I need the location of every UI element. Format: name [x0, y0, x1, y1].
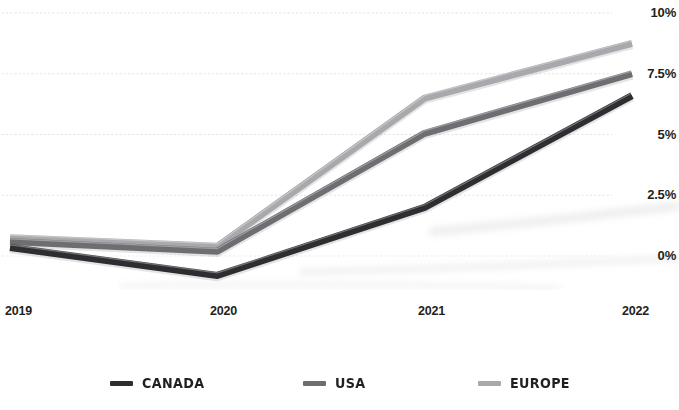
chart-legend: CANADAUSAEUROPE	[0, 373, 679, 397]
plot-area: 10%7.5%5%2.5%0%	[0, 0, 679, 290]
legend-item-europe[interactable]: EUROPE	[478, 373, 578, 393]
y-tick-label: 0%	[658, 249, 676, 262]
y-tick-label: 10%	[651, 6, 676, 19]
legend-swatch-icon	[303, 381, 326, 386]
legend-item-canada[interactable]: CANADA	[110, 373, 213, 393]
line-chart: 10%7.5%5%2.5%0% 2019202020212022 CANADAU…	[0, 0, 679, 410]
legend-item-usa[interactable]: USA	[303, 373, 370, 393]
legend-label: EUROPE	[510, 376, 570, 391]
plot-svg	[0, 0, 679, 290]
legend-swatch-icon	[110, 381, 133, 386]
y-tick-label: 7.5%	[647, 67, 676, 80]
y-tick-label: 5%	[658, 128, 676, 141]
legend-label: CANADA	[142, 376, 204, 391]
x-tick-label-2022: 2022	[622, 305, 649, 318]
x-tick-label-2021: 2021	[418, 305, 445, 318]
x-tick-label-2020: 2020	[210, 305, 237, 318]
y-tick-label: 2.5%	[647, 188, 676, 201]
series-layer	[10, 41, 632, 277]
x-tick-label-2019: 2019	[5, 305, 32, 318]
x-axis-labels: 2019202020212022	[0, 305, 679, 327]
legend-label: USA	[335, 376, 365, 391]
legend-swatch-icon	[478, 381, 501, 386]
